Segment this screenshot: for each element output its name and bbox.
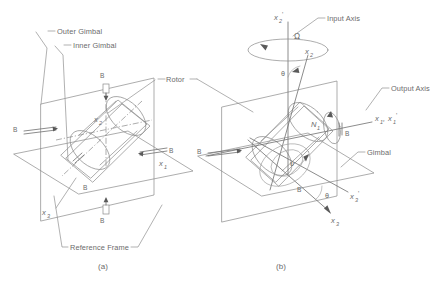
axis-label-x2-prime-b: x 2 ' — [273, 11, 283, 24]
bearing-bottom-a — [103, 197, 109, 214]
axis-label-x1-a: x 1 — [158, 159, 167, 170]
panel-b: B B B Ω υ θ θ N 1 x 2 ' x — [197, 11, 430, 271]
theta-top-symbol: θ — [281, 69, 285, 78]
bearing-top-a — [103, 84, 109, 101]
svg-text:': ' — [282, 11, 283, 18]
axis-label-x3-a: x 3 — [41, 178, 76, 219]
axis-label-x2-b: x 2 — [304, 47, 313, 58]
svg-text:1: 1 — [317, 125, 320, 131]
svg-text:3: 3 — [355, 197, 358, 203]
theta-arc-bottom — [315, 186, 322, 200]
precession-arrow — [260, 44, 268, 50]
caption-b: (b) — [276, 262, 286, 271]
svg-text:3: 3 — [336, 221, 339, 227]
leader-outer-gimbal — [36, 31, 55, 104]
bearing-top-a-label: B — [100, 72, 105, 79]
bearing-inner-a-label: B — [83, 184, 88, 191]
svg-text:': ' — [358, 190, 359, 197]
svg-text:': ' — [396, 112, 397, 119]
axis-x2-line-b — [270, 55, 308, 190]
bearing-right-b-label: B — [345, 130, 350, 137]
leader-rotor — [108, 79, 253, 113]
bearing-left-a-label: B — [13, 126, 18, 133]
gyroscope-diagram: B B B B B x 1 — [0, 0, 438, 281]
rotor-spin-indicator — [252, 135, 318, 195]
axis-label-x1-x1prime-b: x 1 , x 1 ' — [374, 112, 397, 125]
svg-text:1: 1 — [393, 119, 396, 125]
inner-gimbal-ring — [61, 100, 150, 182]
outer-gimbal-label: Outer Gimbal — [57, 27, 102, 36]
reference-frame-label: Reference Frame — [70, 243, 129, 252]
torque-n1-label: N 1 — [311, 120, 320, 131]
axis-x3-line — [62, 101, 142, 176]
reference-plane-b — [198, 133, 374, 196]
axis-label-x3-prime-b: x 3 ' — [349, 190, 359, 203]
caption-a: (a) — [98, 262, 108, 271]
svg-text:3: 3 — [47, 213, 50, 219]
axis-x2-arrow — [292, 68, 299, 73]
bearing-bottom-b-label: B — [297, 186, 302, 193]
axis-x3-prime-line-b — [250, 138, 348, 192]
svg-text:,: , — [383, 114, 385, 123]
svg-text:1: 1 — [164, 164, 167, 170]
leader-output-axis — [366, 88, 389, 110]
inner-gimbal-label: Inner Gimbal — [73, 41, 117, 50]
gimbal-label: Gimbal — [367, 148, 391, 157]
theta-bottom-symbol: θ — [325, 191, 329, 200]
leader-gimbal-b — [341, 152, 365, 167]
axis-label-x3-b: x 3 — [330, 216, 339, 227]
bearing-right-a-label: B — [169, 147, 174, 154]
outer-gimbal-plane — [41, 78, 154, 221]
svg-text:2: 2 — [98, 120, 102, 126]
svg-text:2: 2 — [309, 52, 313, 58]
leader-reference-frame — [54, 196, 162, 247]
bearing-bottom-a-label: B — [100, 217, 105, 224]
panel-a: B B B B B x 1 — [13, 27, 253, 271]
input-axis-label: Input Axis — [327, 14, 360, 23]
rotor-label: Rotor — [166, 75, 185, 84]
bearing-left-b-label: B — [197, 148, 202, 155]
output-axis-label: Output Axis — [391, 84, 430, 93]
axis-x3-arrow — [324, 205, 331, 214]
figure-root: B B B B B x 1 — [0, 0, 438, 281]
rotor-spin-symbol: υ — [290, 159, 294, 168]
axis-x1-line-b — [206, 122, 372, 156]
svg-text:2: 2 — [278, 18, 282, 24]
